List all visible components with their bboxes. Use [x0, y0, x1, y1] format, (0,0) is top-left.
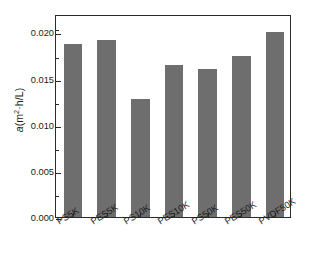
y-axis-tick-label: 0.015: [31, 75, 54, 85]
y-axis-tick-label: 0.000: [31, 213, 54, 223]
y-axis-tick-label: 0.020: [31, 28, 54, 38]
plot-area: [55, 15, 291, 218]
y-axis-minor-tick: [56, 58, 59, 59]
y-axis-tick-label: 0.010: [31, 121, 54, 131]
bar: [97, 40, 116, 217]
y-axis-minor-tick: [56, 104, 59, 105]
bar: [165, 65, 184, 217]
y-axis-major-tick: [56, 34, 61, 35]
x-axis-tick-labels: PS5KPES5KPS10KPES10KPS50KPES50KPVDF50K: [55, 218, 291, 257]
bar: [64, 44, 83, 217]
y-axis-minor-tick: [56, 150, 59, 151]
bar: [198, 69, 217, 217]
bar: [131, 99, 150, 217]
y-axis-tick-labels: 0.0000.0050.0100.0150.020: [20, 0, 54, 257]
y-axis-major-tick: [56, 81, 61, 82]
y-axis-minor-tick: [56, 30, 59, 31]
y-axis-major-tick: [56, 173, 61, 174]
y-axis-major-tick: [56, 127, 61, 128]
y-axis-minor-tick: [56, 196, 59, 197]
bar: [232, 56, 251, 217]
y-axis-tick-label: 0.005: [31, 167, 54, 177]
bar: [266, 32, 285, 217]
bar-chart-figure: a(m2·h/L) 0.0000.0050.0100.0150.020 PS5K…: [0, 0, 311, 257]
